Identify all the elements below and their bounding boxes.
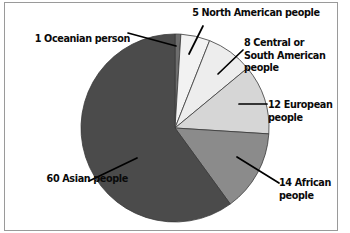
pie-label-north-american: 5 North American people	[175, 6, 337, 19]
pie-slices	[81, 34, 269, 222]
pie-label-asian: 60 Asian people	[16, 172, 128, 185]
pie-label-central-south-american: 8 Central or South American people	[244, 36, 336, 74]
pie-label-european: 12 European people	[268, 98, 342, 123]
pie-label-african: 14 African people	[279, 176, 343, 201]
chart-page: 1 Oceanian person 5 North American peopl…	[0, 0, 350, 233]
pie-label-oceanian: 1 Oceanian person	[27, 32, 130, 45]
